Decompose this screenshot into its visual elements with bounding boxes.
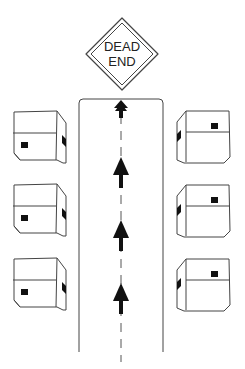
house-icon	[177, 259, 230, 311]
arrow-up-icon	[114, 100, 128, 118]
dead-end-diagram: DEAD END	[0, 0, 245, 369]
house-icon	[177, 111, 230, 163]
arrow-up-icon	[113, 283, 129, 314]
sign-line-1: DEAD	[104, 39, 140, 54]
right-houses	[177, 111, 230, 311]
sign-line-2: END	[108, 54, 135, 69]
arrow-up-icon	[113, 220, 129, 251]
house-icon	[13, 184, 66, 236]
house-icon	[177, 185, 230, 237]
house-icon	[13, 258, 66, 310]
house-icon	[13, 111, 66, 163]
left-houses	[13, 111, 66, 310]
arrow-up-icon	[113, 157, 129, 188]
dead-end-sign: DEAD END	[86, 18, 158, 90]
